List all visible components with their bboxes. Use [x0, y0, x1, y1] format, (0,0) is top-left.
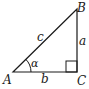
- vertex-label-b: B: [76, 1, 86, 15]
- triangle-outline: [13, 9, 77, 72]
- right-triangle-diagram: A B C a b c α: [0, 0, 89, 89]
- vertex-label-c: C: [77, 74, 86, 88]
- right-angle-marker: [66, 61, 77, 72]
- side-label-c: c: [37, 30, 44, 44]
- side-label-b: b: [41, 72, 49, 86]
- vertex-label-a: A: [2, 73, 12, 87]
- side-label-a: a: [79, 34, 86, 48]
- angle-label-alpha: α: [31, 57, 39, 70]
